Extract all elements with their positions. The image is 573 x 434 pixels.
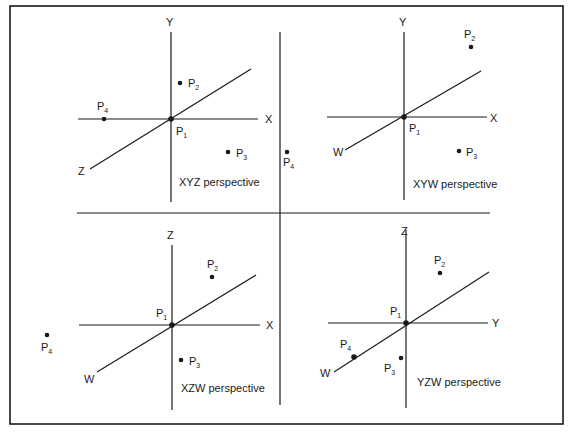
- panel-caption: XZW perspective: [181, 382, 265, 394]
- axis-label-y: Y: [492, 317, 500, 329]
- point-p3: [399, 356, 404, 361]
- point-p2: [178, 81, 183, 86]
- point-label-p1: P1: [156, 307, 167, 321]
- point-label-p1: P1: [176, 125, 187, 139]
- point-label-p4: P4: [340, 338, 351, 352]
- point-label-p3: P3: [236, 147, 247, 161]
- axis-label-y: Y: [399, 16, 407, 28]
- point-label-p2: P2: [207, 258, 218, 272]
- w-axis: [345, 71, 481, 150]
- w-axis: [97, 275, 256, 372]
- point-p1: [401, 114, 407, 120]
- point-p2: [438, 271, 443, 276]
- point-label-p1: P1: [409, 122, 420, 136]
- axis-label-x: X: [266, 319, 274, 331]
- point-label-p1: P1: [390, 305, 401, 319]
- point-p4: [285, 150, 290, 155]
- panel-caption: XYZ perspective: [179, 176, 260, 188]
- point-label-p3: P3: [189, 355, 200, 369]
- point-p4: [351, 354, 357, 360]
- axis-label-w: W: [320, 367, 331, 379]
- panel-xyz: Y X Z P1 P2 P3 P4 XYZ perspective: [78, 16, 273, 202]
- point-label-p2: P2: [188, 77, 199, 91]
- outer-frame: [10, 6, 563, 424]
- point-p4: [45, 333, 50, 338]
- point-label-p4: P4: [97, 100, 108, 114]
- axis-label-z: Z: [78, 165, 85, 177]
- point-p1: [169, 322, 175, 328]
- point-p3: [457, 149, 462, 154]
- point-label-p4: P4: [41, 341, 52, 355]
- point-p1: [168, 116, 174, 122]
- panel-caption: YZW perspective: [417, 376, 501, 388]
- panel-xyw: Y X W P1 P2 P3 P4 XYW perspective: [283, 16, 498, 200]
- point-p2: [469, 45, 474, 50]
- axis-label-x: X: [265, 113, 273, 125]
- panel-caption: XYW perspective: [413, 178, 497, 190]
- axis-label-y: Y: [166, 16, 174, 28]
- point-label-p2: P2: [434, 254, 445, 268]
- point-p3: [179, 358, 184, 363]
- point-label-p2: P2: [464, 28, 475, 42]
- point-label-p3: P3: [384, 362, 395, 376]
- axis-label-x: X: [490, 112, 498, 124]
- point-p2: [210, 275, 215, 280]
- axis-label-z: Z: [167, 229, 174, 241]
- point-p1: [403, 320, 409, 326]
- point-p3: [226, 150, 231, 155]
- point-p4: [102, 117, 107, 122]
- w-axis: [334, 272, 489, 372]
- axis-label-w: W: [333, 146, 344, 158]
- axis-label-z: Z: [401, 225, 408, 237]
- point-label-p3: P3: [466, 146, 477, 160]
- axis-label-w: W: [84, 373, 95, 385]
- panel-yzw: Z Y W P1 P2 P3 P4 YZW perspective: [320, 225, 501, 408]
- four-perspective-diagram: Y X Z P1 P2 P3 P4 XYZ perspective Y X W …: [0, 0, 573, 434]
- point-label-p4: P4: [283, 156, 294, 170]
- panel-xzw: Z X W P1 P2 P3 P4 XZW perspective: [41, 229, 274, 410]
